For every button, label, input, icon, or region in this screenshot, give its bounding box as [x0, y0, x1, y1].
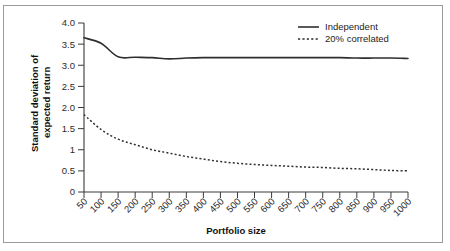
chart-figure-frame: Standard deviation of expected return 00… [3, 5, 443, 243]
x-tick-label: 700 [292, 196, 311, 215]
x-tick-label: 1000 [391, 196, 414, 219]
x-tick-label: 650 [275, 196, 294, 215]
y-tick-label: 0 [70, 186, 75, 197]
legend-label: Independent [325, 21, 378, 32]
y-axis-title-line-2: expected return [41, 67, 52, 138]
y-tick-label: 0.5 [62, 165, 75, 176]
legend-label: 20% correlated [325, 33, 389, 44]
x-tick-label: 550 [241, 196, 260, 215]
x-tick-label: 450 [207, 196, 226, 215]
x-tick-label: 800 [326, 196, 345, 215]
x-tick-label: 600 [258, 196, 277, 215]
chart-legend: Independent20% correlated [298, 21, 389, 44]
series-line-dashed [84, 115, 408, 171]
x-tick-label: 500 [224, 196, 243, 215]
x-tick-label: 400 [190, 196, 209, 215]
x-tick-label: 900 [360, 196, 379, 215]
y-tick-label: 4.0 [62, 17, 75, 28]
y-tick-label: 3.0 [62, 60, 75, 71]
x-tick-label: 250 [139, 196, 158, 215]
x-tick-label: 150 [105, 196, 124, 215]
y-tick-label: 2.5 [62, 81, 75, 92]
x-tick-label: 350 [173, 196, 192, 215]
x-tick-label: 100 [87, 196, 106, 215]
y-axis-title-group: Standard deviation of expected return [29, 54, 52, 152]
y-tick-label: 2.0 [62, 102, 75, 113]
x-axis-title: Portfolio size [206, 225, 266, 236]
y-axis-title-line-1: Standard deviation of [29, 54, 40, 152]
series-paths [84, 38, 408, 171]
y-tick-label: 3.5 [62, 39, 75, 50]
x-tick-label: 50 [74, 196, 89, 211]
x-axis: 5010015020025030035040045050055060065070… [74, 192, 413, 218]
portfolio-risk-line-chart: Standard deviation of expected return 00… [4, 6, 442, 242]
x-tick-label: 300 [156, 196, 175, 215]
x-tick-label: 850 [343, 196, 362, 215]
y-tick-label: 1 [70, 144, 75, 155]
x-tick-label: 200 [122, 196, 141, 215]
y-tick-label: 1.5 [62, 123, 75, 134]
x-tick-label: 750 [309, 196, 328, 215]
y-axis: 00.511.52.02.53.03.54.0 [62, 17, 84, 197]
